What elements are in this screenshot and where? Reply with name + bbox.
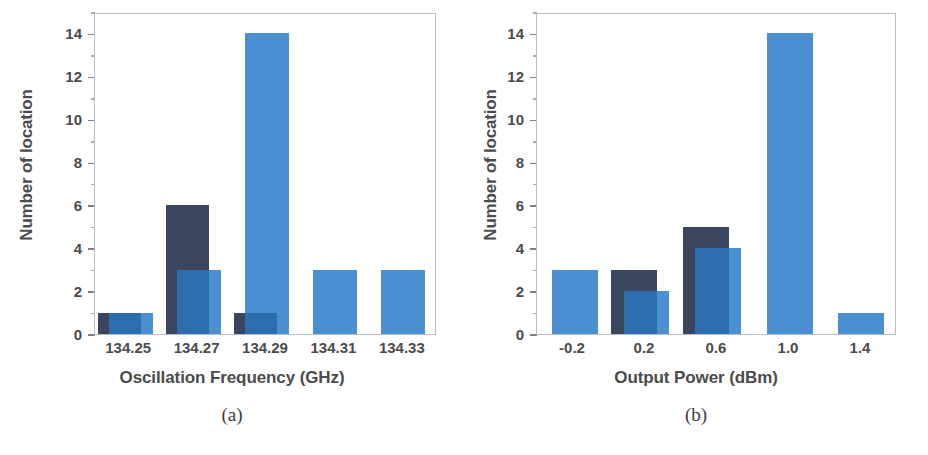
x-tick-label-134.25: 134.25 bbox=[94, 339, 162, 356]
y-tick-label: 4 bbox=[74, 239, 82, 259]
panel-a-subcaption: (a) bbox=[0, 404, 464, 426]
bar-group--0.2 bbox=[537, 14, 609, 334]
panel-a: Number of location 02468101214 134.25134… bbox=[0, 0, 464, 455]
y-tick-label: 10 bbox=[65, 110, 82, 130]
bar-light-134.31 bbox=[313, 270, 357, 334]
x-tick-label-134.31: 134.31 bbox=[299, 339, 367, 356]
panel-b-subcaption: (b) bbox=[464, 404, 928, 426]
bar-group-134.29 bbox=[231, 14, 299, 334]
y-tick-label: 12 bbox=[65, 67, 82, 87]
y-tick-label: 6 bbox=[516, 196, 524, 216]
x-tick-label-1.0: 1.0 bbox=[752, 339, 824, 356]
y-tick-label: 12 bbox=[507, 67, 524, 87]
x-tick-label-134.29: 134.29 bbox=[231, 339, 299, 356]
panel-a-y-ticks: 02468101214 bbox=[0, 13, 94, 335]
bar-overlap-134.29 bbox=[245, 313, 277, 334]
y-tick-label: 8 bbox=[74, 153, 82, 173]
bar-light-134.33 bbox=[381, 270, 425, 334]
x-tick-label-1.4: 1.4 bbox=[824, 339, 896, 356]
bar-overlap-134.27 bbox=[177, 270, 209, 334]
y-tick-label: 6 bbox=[74, 196, 82, 216]
y-tick-label: 4 bbox=[516, 239, 524, 259]
bar-light--0.2 bbox=[552, 270, 598, 334]
panel-a-x-axis-title: Oscillation Frequency (GHz) bbox=[0, 368, 464, 388]
y-tick-label: 8 bbox=[516, 153, 524, 173]
panel-a-plot-frame bbox=[94, 13, 436, 335]
x-tick-label-0.6: 0.6 bbox=[680, 339, 752, 356]
y-tick-label: 2 bbox=[516, 282, 524, 302]
bar-group-134.31 bbox=[299, 14, 367, 334]
panel-b-bars bbox=[537, 14, 895, 334]
bar-overlap-0.2 bbox=[624, 291, 658, 334]
y-tick-label: 2 bbox=[74, 282, 82, 302]
bar-light-1.0 bbox=[767, 33, 813, 334]
x-tick-label--0.2: -0.2 bbox=[536, 339, 608, 356]
bar-light-1.4 bbox=[838, 313, 884, 334]
bar-group-134.25 bbox=[95, 14, 163, 334]
y-tick-label: 14 bbox=[507, 24, 524, 44]
bar-overlap-0.6 bbox=[695, 248, 729, 334]
y-tick-label: 10 bbox=[507, 110, 524, 130]
y-tick-label: 14 bbox=[65, 24, 82, 44]
x-tick-label-134.27: 134.27 bbox=[162, 339, 230, 356]
x-tick-label-134.33: 134.33 bbox=[368, 339, 436, 356]
panel-b-x-axis-title: Output Power (dBm) bbox=[464, 368, 928, 388]
bar-group-134.27 bbox=[163, 14, 231, 334]
bar-group-0.2 bbox=[609, 14, 681, 334]
y-tick-label: 0 bbox=[516, 325, 524, 345]
bar-overlap-134.25 bbox=[109, 313, 141, 334]
panel-a-bars bbox=[95, 14, 435, 334]
panel-b-x-tick-labels: -0.20.20.61.01.4 bbox=[536, 339, 896, 356]
bar-group-1.4 bbox=[823, 14, 895, 334]
y-tick-label: 0 bbox=[74, 325, 82, 345]
panel-a-x-tick-labels: 134.25134.27134.29134.31134.33 bbox=[94, 339, 436, 356]
panel-b-y-ticks: 02468101214 bbox=[464, 13, 536, 335]
bar-group-0.6 bbox=[680, 14, 752, 334]
bar-group-1.0 bbox=[752, 14, 824, 334]
x-tick-label-0.2: 0.2 bbox=[608, 339, 680, 356]
panel-b-plot-frame bbox=[536, 13, 896, 335]
bar-group-134.33 bbox=[367, 14, 435, 334]
panel-b: Number of location 02468101214 -0.20.20.… bbox=[464, 0, 928, 455]
figure-two-panel-histograms: Number of location 02468101214 134.25134… bbox=[0, 0, 928, 455]
bar-light-134.29 bbox=[245, 33, 289, 334]
